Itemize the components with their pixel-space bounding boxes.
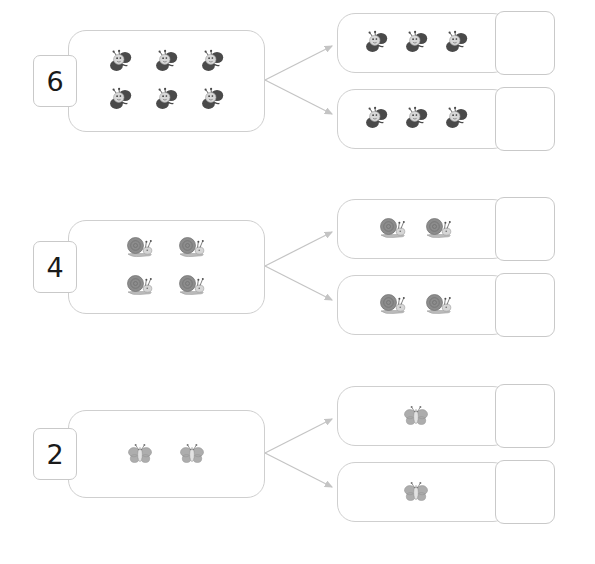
total-group-box	[68, 410, 265, 498]
connector-arrow	[265, 80, 332, 114]
total-group-box	[68, 30, 265, 132]
total-number-value: 4	[46, 254, 63, 281]
answer-input-box[interactable]	[495, 384, 555, 448]
connector-arrow	[265, 232, 332, 266]
answer-input-box[interactable]	[495, 197, 555, 261]
worksheet-canvas: 6	[0, 0, 595, 564]
total-number-value: 6	[46, 68, 63, 95]
connector-arrow	[265, 453, 332, 487]
connector-arrow	[265, 46, 332, 80]
part-group-box	[337, 199, 511, 259]
part-group-box	[337, 462, 511, 522]
part-group-box	[337, 386, 511, 446]
total-group-box	[68, 220, 265, 314]
answer-input-box[interactable]	[495, 87, 555, 151]
total-number-chip: 6	[33, 55, 77, 107]
total-number-chip: 4	[33, 241, 77, 293]
total-number-value: 2	[46, 441, 63, 468]
connector-arrow	[265, 419, 332, 453]
total-number-chip: 2	[33, 428, 77, 480]
part-group-box	[337, 89, 511, 149]
answer-input-box[interactable]	[495, 273, 555, 337]
connector-arrow	[265, 266, 332, 300]
part-group-box	[337, 13, 511, 73]
answer-input-box[interactable]	[495, 11, 555, 75]
part-group-box	[337, 275, 511, 335]
answer-input-box[interactable]	[495, 460, 555, 524]
